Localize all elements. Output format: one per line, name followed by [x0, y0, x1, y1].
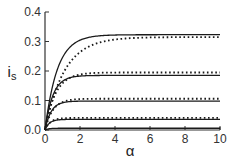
y-tick-label: 0.0 [24, 123, 41, 137]
series-solid-3 [45, 101, 220, 130]
series-dotted-3 [45, 99, 220, 130]
x-tick-label: 6 [147, 132, 154, 146]
x-tick-label: 0 [42, 132, 49, 146]
chart: 0.00.10.20.30.40246810 α is [0, 0, 234, 162]
series-solid-1 [45, 35, 220, 130]
x-tick-label: 10 [213, 132, 227, 146]
y-axis-label: is [8, 63, 17, 82]
x-tick-label: 8 [182, 132, 189, 146]
x-axis-label: α [126, 142, 135, 159]
y-tick-label: 0.3 [24, 35, 41, 49]
x-tick-label: 2 [77, 132, 84, 146]
y-tick-label: 0.4 [24, 5, 41, 19]
series-group [45, 35, 220, 130]
series-solid-2 [45, 75, 220, 130]
y-tick-label: 0.1 [24, 94, 41, 108]
y-tick-label: 0.2 [24, 64, 41, 78]
series-dotted-1 [45, 37, 220, 130]
x-tick-label: 4 [112, 132, 119, 146]
